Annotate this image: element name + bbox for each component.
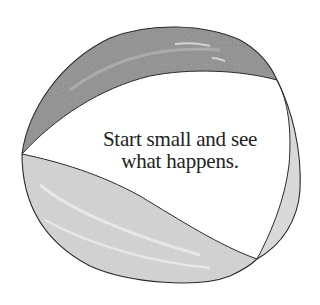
caption-line-1: Start small and see	[60, 128, 300, 150]
caption-line-2: what happens.	[60, 150, 300, 172]
bottom-stripe	[22, 154, 257, 283]
caption: Start small and see what happens.	[60, 128, 300, 172]
